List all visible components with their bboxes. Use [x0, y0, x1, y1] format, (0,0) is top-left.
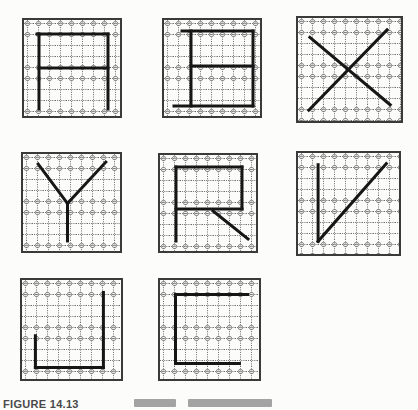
caption-text-smudge [134, 399, 176, 407]
letter-cell-Y [21, 152, 122, 253]
letter-cell-X [296, 16, 403, 123]
letter-cell-A [22, 18, 122, 118]
letter-cell-V [296, 151, 401, 256]
figure-caption: FIGURE 14.13 [3, 398, 272, 410]
caption-text-smudge [188, 399, 272, 407]
dot-grid-background [23, 154, 120, 251]
dot-grid-background [164, 20, 260, 116]
letter-cell-R [158, 153, 258, 253]
letter-cell-J [20, 278, 123, 381]
caption-label: FIGURE 14.13 [3, 398, 79, 410]
letter-cell-B [162, 18, 262, 118]
letter-cell-C [158, 278, 261, 381]
